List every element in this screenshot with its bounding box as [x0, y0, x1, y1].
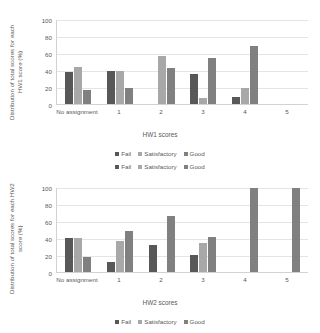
hw2-bar-groups — [57, 188, 308, 272]
hw1-legend-label: Good — [190, 150, 205, 157]
hw1-y-tick: 0 — [49, 102, 52, 109]
hw2-top-legend-swatch-sat — [138, 165, 142, 169]
hw1-bar-fail — [65, 72, 73, 104]
hw2-y-tick-labels: 020406080100 — [36, 186, 52, 272]
hw1-legend-item[interactable]: Fail — [115, 150, 131, 157]
hw1-x-label: No assignment — [56, 108, 98, 116]
hw1-group — [266, 20, 308, 104]
hw1-legend-swatch-sat — [138, 152, 142, 156]
hw2-group — [266, 188, 308, 272]
hw2-legend-swatch-good — [184, 320, 188, 324]
hw2-bar-sat — [74, 238, 82, 272]
hw2-legend-swatch-fail — [115, 320, 119, 324]
hw2-top-legend-item[interactable]: Good — [184, 163, 205, 170]
hw2-y-axis-title: Distribution of total scores for each HW… — [8, 182, 26, 296]
hw1-bar-sat — [158, 56, 166, 104]
hw2-legend-top: FailSatisfactoryGood — [0, 163, 320, 170]
hw2-x-label: 3 — [182, 276, 224, 284]
hw2-bar-fail — [190, 255, 198, 272]
hw2-x-label: No assignment — [56, 276, 98, 284]
hw1-x-label: 5 — [266, 108, 308, 116]
hw1-legend-label: Fail — [121, 150, 131, 157]
hw1-legend-item[interactable]: Good — [184, 150, 205, 157]
hw1-x-label: 2 — [140, 108, 182, 116]
hw2-x-label: 4 — [224, 276, 266, 284]
hw2-x-tick-labels: No assignment12345 — [56, 276, 308, 284]
hw1-bar-sat — [199, 98, 207, 104]
hw2-group — [224, 188, 266, 272]
hw2-legend-item[interactable]: Good — [184, 318, 205, 325]
hw2-group — [182, 188, 224, 272]
hw2-x-label: 5 — [266, 276, 308, 284]
hw1-group — [182, 20, 224, 104]
hw1-legend-item[interactable]: Satisfactory — [138, 150, 176, 157]
hw1-bar-sat — [116, 71, 124, 104]
hw2-bar-good — [208, 237, 216, 272]
hw2-top-legend-swatch-good — [184, 165, 188, 169]
hw2-y-tick: 60 — [45, 219, 52, 226]
hw2-bar-good — [125, 231, 133, 272]
hw1-y-tick-labels: 020406080100 — [36, 18, 52, 104]
hw1-y-tick: 60 — [45, 51, 52, 58]
hw1-plot-area — [56, 20, 308, 105]
hw2-chart: FailSatisfactoryGood Distribution of tot… — [0, 168, 320, 333]
hw2-group — [57, 188, 99, 272]
hw2-group — [141, 188, 183, 272]
hw1-legend-swatch-good — [184, 152, 188, 156]
hw1-y-axis-title: Distribution of total scores for each HW… — [8, 18, 26, 126]
hw1-bar-fail — [232, 97, 240, 104]
hw1-x-tick-labels: No assignment12345 — [56, 108, 308, 116]
hw2-top-legend-item[interactable]: Satisfactory — [138, 163, 176, 170]
hw2-legend-swatch-sat — [138, 320, 142, 324]
hw2-x-label: 2 — [140, 276, 182, 284]
hw1-bar-groups — [57, 20, 308, 104]
hw1-x-label: 3 — [182, 108, 224, 116]
hw2-x-axis-title: HW2 scores — [0, 299, 320, 306]
hw1-x-label: 4 — [224, 108, 266, 116]
hw1-bar-good — [208, 58, 216, 104]
hw1-x-label: 1 — [98, 108, 140, 116]
hw1-legend-label: Satisfactory — [144, 150, 176, 157]
hw1-group — [99, 20, 141, 104]
hw2-legend-item[interactable]: Fail — [115, 318, 131, 325]
hw2-x-label: 1 — [98, 276, 140, 284]
hw2-bar-sat — [116, 241, 124, 272]
hw1-group — [224, 20, 266, 104]
hw1-legend-swatch-fail — [115, 152, 119, 156]
hw2-top-legend-label: Good — [190, 163, 205, 170]
hw1-bar-good — [125, 88, 133, 104]
hw2-plot-area — [56, 188, 308, 273]
hw1-y-tick: 40 — [45, 68, 52, 75]
hw1-y-tick: 80 — [45, 34, 52, 41]
hw2-bar-good — [83, 257, 91, 272]
hw2-legend-item[interactable]: Satisfactory — [138, 318, 176, 325]
hw1-group — [57, 20, 99, 104]
hw1-bar-good — [250, 46, 258, 104]
hw2-bar-fail — [107, 262, 115, 272]
hw1-x-axis-title: HW1 scores — [0, 131, 320, 138]
hw1-legend: FailSatisfactoryGood — [0, 150, 320, 157]
hw2-bar-fail — [149, 245, 157, 272]
hw1-y-tick: 20 — [45, 85, 52, 92]
hw1-chart: Distribution of total scores for each HW… — [0, 0, 320, 168]
hw2-bar-sat — [199, 243, 207, 272]
hw2-top-legend-label: Fail — [121, 163, 131, 170]
hw2-bar-good — [250, 188, 258, 272]
hw1-bar-sat — [241, 88, 249, 104]
hw2-group — [99, 188, 141, 272]
hw2-top-legend-label: Satisfactory — [144, 163, 176, 170]
hw1-bar-fail — [190, 74, 198, 104]
hw2-top-legend-swatch-fail — [115, 165, 119, 169]
hw2-legend-label: Good — [190, 318, 205, 325]
hw2-top-legend-item[interactable]: Fail — [115, 163, 131, 170]
hw1-bar-fail — [107, 71, 115, 104]
hw1-group — [141, 20, 183, 104]
hw2-legend-bottom: FailSatisfactoryGood — [0, 318, 320, 325]
hw2-legend-label: Fail — [121, 318, 131, 325]
hw2-y-tick: 0 — [49, 270, 52, 277]
hw1-bar-sat — [74, 67, 82, 104]
hw2-y-tick: 100 — [42, 185, 52, 192]
hw2-y-tick: 20 — [45, 253, 52, 260]
hw1-bar-good — [83, 90, 91, 104]
hw2-bar-fail — [65, 238, 73, 272]
